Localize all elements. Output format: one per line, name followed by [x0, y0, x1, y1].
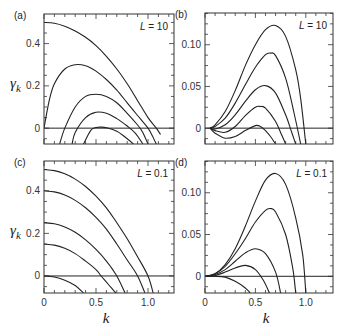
panel-c: 00.20.400.51.0k(c)L = 0.1γk [10, 157, 174, 326]
ytick-label: 0 [195, 123, 201, 134]
figure-canvas: 00.20.4(a)L = 10γk00.050.10(b)L = 1000.2… [0, 0, 346, 328]
ytick-label: 0 [195, 271, 201, 282]
panel-label: (a) [14, 10, 26, 21]
plot-frame [205, 13, 333, 144]
series-curve3 [44, 223, 125, 293]
x-axis-label: k [263, 310, 270, 326]
series-curve3 [60, 94, 148, 144]
x-axis-label: k [103, 310, 110, 326]
series-curve1 [205, 173, 306, 293]
ytick-label: 0 [34, 123, 40, 134]
ytick-label: 0.4 [26, 185, 40, 196]
panel-d: 00.050.1000.51.0k(d)L = 0.1 [175, 157, 333, 326]
panel-label: (d) [175, 157, 187, 168]
xtick-label: 0 [202, 297, 208, 308]
series-curve1 [210, 25, 306, 144]
y-axis-label: γk [10, 222, 22, 241]
series-curve2 [205, 208, 296, 293]
xtick-label: 0 [41, 297, 47, 308]
panel-label: (c) [14, 157, 26, 168]
panel-label: (b) [175, 9, 187, 20]
annotation-L: L = 10 [140, 21, 169, 32]
series-curve4 [44, 244, 116, 293]
xtick-label: 0.5 [248, 297, 262, 308]
ytick-label: 0.10 [182, 39, 202, 50]
ytick-label: 0.05 [182, 229, 202, 240]
ytick-label: 0.2 [26, 80, 40, 91]
plot-frame [205, 161, 333, 293]
xtick-label: 1.0 [299, 297, 313, 308]
series-curve4 [205, 265, 270, 293]
ytick-label: 0.05 [182, 81, 202, 92]
series-curve5 [44, 276, 84, 293]
ytick-label: 0.4 [26, 38, 40, 49]
ytick-label: 0 [34, 270, 40, 281]
series-curve1 [44, 23, 161, 135]
ytick-label: 0.10 [182, 187, 202, 198]
series-curve4 [210, 106, 286, 144]
ytick-label: 0.2 [26, 228, 40, 239]
xtick-label: 1.0 [141, 297, 155, 308]
y-axis-label: γk [10, 75, 22, 94]
annotation-L: L = 0.1 [296, 168, 327, 179]
series-curve5 [205, 276, 250, 293]
panel-a: 00.20.4(a)L = 10γk [10, 10, 174, 144]
series-curve5 [84, 127, 134, 144]
panel-b: 00.050.10(b)L = 10 [175, 9, 333, 144]
annotation-L: L = 10 [299, 20, 328, 31]
series-curve2 [210, 53, 301, 144]
plot-frame [44, 14, 174, 144]
xtick-label: 0.5 [89, 297, 103, 308]
annotation-L: L = 0.1 [137, 168, 168, 179]
